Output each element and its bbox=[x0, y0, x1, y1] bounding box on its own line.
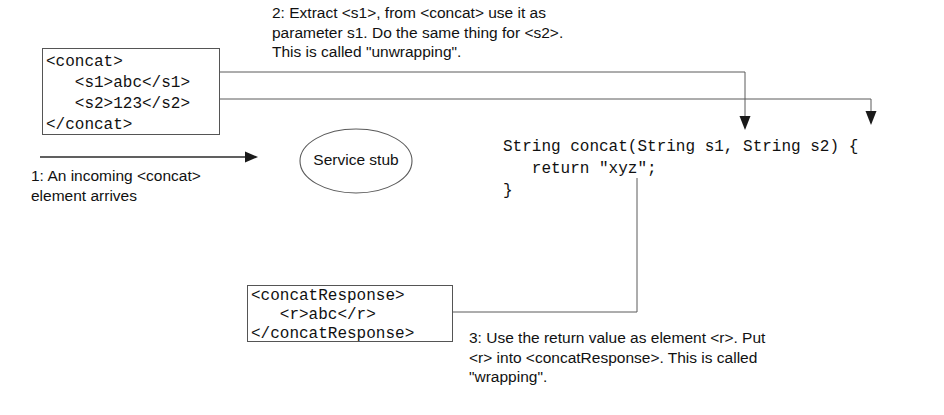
arrow-unwrap-s2 bbox=[219, 99, 877, 125]
service-stub-label: Service stub bbox=[300, 150, 412, 169]
arrow-unwrap-s1 bbox=[219, 72, 751, 130]
note-step-3-wrapping: 3: Use the return value as element <r>. … bbox=[469, 328, 889, 387]
concat-request-box: <concat> <s1>abc</s1> <s2>123</s2> </con… bbox=[42, 48, 220, 135]
note-step-2-unwrapping: 2: Extract <s1>, from <concat> use it as… bbox=[272, 3, 672, 62]
note-step-1-incoming: 1: An incoming <concat> element arrives bbox=[31, 166, 291, 205]
java-method-code: String concat(String s1, String s2) { re… bbox=[503, 136, 858, 202]
diagram-canvas: <concat> <s1>abc</s1> <s2>123</s2> </con… bbox=[0, 0, 944, 415]
concat-response-box: <concatResponse> <r>abc</r> </concatResp… bbox=[247, 285, 453, 342]
arrow-incoming-request bbox=[40, 152, 258, 163]
